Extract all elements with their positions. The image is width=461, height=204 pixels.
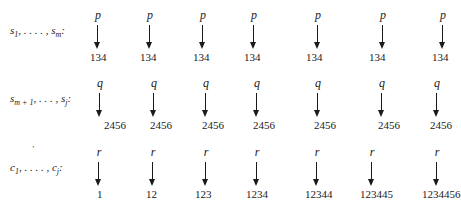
- mapped-value: 12: [146, 188, 157, 200]
- prime-mark: ′: [32, 145, 34, 154]
- down-arrow-icon: [149, 93, 159, 117]
- down-arrow-icon: [438, 25, 448, 49]
- symbol-p: p: [92, 8, 104, 23]
- row-label-c1-to-cj: c1, . . . . , cj:: [10, 161, 63, 176]
- mapped-value: 134: [90, 51, 107, 63]
- down-arrow-icon: [313, 25, 323, 49]
- mapped-value: 123445: [360, 188, 393, 200]
- down-arrow-icon: [252, 93, 262, 117]
- mapped-value: 134: [432, 51, 449, 63]
- row-label-s1-to-sm: s1, . . . . , sm:: [10, 24, 65, 39]
- mapped-value: 1234: [246, 188, 268, 200]
- down-arrow-icon: [148, 162, 158, 186]
- down-arrow-icon: [198, 25, 208, 49]
- down-arrow-icon: [432, 162, 442, 186]
- down-arrow-icon: [252, 162, 262, 186]
- mapped-value: 2456: [430, 119, 452, 131]
- row-label-sm1-to-sj: sm + 1, . . . , sj:: [10, 92, 71, 107]
- symbol-r: r: [147, 145, 159, 160]
- down-arrow-icon: [367, 162, 377, 186]
- symbol-p: p: [437, 8, 449, 23]
- symbol-p: p: [312, 8, 324, 23]
- symbol-r: r: [251, 145, 263, 160]
- symbol-r: r: [366, 145, 378, 160]
- mapped-value: 2456: [150, 119, 172, 131]
- symbol-q: q: [376, 76, 388, 91]
- symbol-q: q: [312, 76, 324, 91]
- symbol-p: p: [144, 8, 156, 23]
- mapped-value: 134: [140, 51, 157, 63]
- symbol-r: r: [311, 145, 323, 160]
- mapped-value: 134: [369, 51, 386, 63]
- label-subscript: m + 1: [14, 98, 33, 107]
- symbol-q: q: [200, 76, 212, 91]
- symbol-q: q: [94, 76, 106, 91]
- down-arrow-icon: [249, 25, 259, 49]
- down-arrow-icon: [94, 162, 104, 186]
- symbol-q: q: [431, 76, 443, 91]
- down-arrow-icon: [95, 93, 105, 117]
- symbol-r: r: [200, 145, 212, 160]
- symbol-r: r: [431, 145, 443, 160]
- down-arrow-icon: [313, 93, 323, 117]
- down-arrow-icon: [312, 162, 322, 186]
- label-ellipsis: , . . . . , s: [18, 24, 55, 36]
- mapped-value: 1234456: [422, 188, 461, 200]
- down-arrow-icon: [93, 25, 103, 49]
- symbol-p: p: [248, 8, 260, 23]
- label-colon: :: [61, 24, 65, 36]
- symbol-q: q: [148, 76, 160, 91]
- mapped-value: 1: [97, 188, 103, 200]
- symbol-p: p: [377, 8, 389, 23]
- down-arrow-icon: [145, 25, 155, 49]
- mapped-value: 2456: [253, 119, 275, 131]
- label-ellipsis: , . . . . , c: [19, 161, 57, 173]
- mapped-value: 134: [193, 51, 210, 63]
- label-colon: :: [67, 92, 71, 104]
- down-arrow-icon: [378, 25, 388, 49]
- mapped-value: 123: [195, 188, 212, 200]
- down-arrow-icon: [201, 93, 211, 117]
- symbol-q: q: [251, 76, 263, 91]
- mapped-value: 12344: [305, 188, 333, 200]
- label-colon: :: [59, 161, 63, 173]
- symbol-r: r: [93, 145, 105, 160]
- mapped-value: 2456: [104, 119, 126, 131]
- mapped-value: 2456: [378, 119, 400, 131]
- symbol-p: p: [197, 8, 209, 23]
- mapped-value: 134: [244, 51, 261, 63]
- mapped-value: 134: [306, 51, 323, 63]
- mapped-value: 2456: [202, 119, 224, 131]
- label-ellipsis: , . . . , s: [33, 92, 65, 104]
- mapped-value: 2456: [314, 119, 336, 131]
- down-arrow-icon: [377, 93, 387, 117]
- down-arrow-icon: [432, 93, 442, 117]
- down-arrow-icon: [201, 162, 211, 186]
